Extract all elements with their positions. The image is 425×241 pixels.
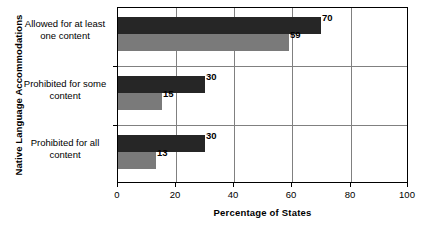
category-label-line: content — [16, 90, 114, 102]
bar-value-allowed-one-content-series-1: 70 — [322, 12, 333, 23]
gridline-80 — [351, 8, 352, 182]
bar-value-prohibited-all-content-series-2: 13 — [157, 147, 168, 158]
bar-allowed-one-content-series-2 — [118, 34, 289, 51]
bar-prohibited-some-content-series-1 — [118, 76, 205, 93]
category-label-line: Prohibited for all — [16, 137, 114, 149]
category-label-line: Prohibited for some — [16, 78, 114, 90]
bar-chart: Native Language Accommodations Allowed f… — [0, 0, 425, 241]
bar-prohibited-some-content-series-2 — [118, 93, 162, 110]
x-axis-tick-label-60: 60 — [276, 189, 306, 200]
x-axis-tick-40 — [233, 183, 234, 187]
x-axis-tick-60 — [291, 183, 292, 187]
group-separator — [118, 66, 407, 67]
category-label-prohibited-all-content: Prohibited for all content — [16, 137, 114, 160]
category-label-prohibited-some-content: Prohibited for some content — [16, 78, 114, 101]
bar-prohibited-all-content-series-2 — [118, 152, 156, 169]
x-axis-tick-100 — [407, 183, 408, 187]
x-axis-title: Percentage of States — [117, 207, 408, 218]
bar-value-prohibited-all-content-series-1: 30 — [206, 130, 217, 141]
bar-value-allowed-one-content-series-2: 59 — [290, 29, 301, 40]
x-axis-tick-0 — [117, 183, 118, 187]
group-separator — [118, 125, 407, 126]
x-axis-tick-label-20: 20 — [160, 189, 190, 200]
x-axis-tick-label-40: 40 — [218, 189, 248, 200]
category-label-line: Allowed for at least — [16, 18, 114, 30]
bar-value-prohibited-some-content-series-2: 15 — [163, 88, 174, 99]
x-axis-tick-label-80: 80 — [335, 189, 365, 200]
x-axis-tick-20 — [175, 183, 176, 187]
category-label-line: content — [16, 149, 114, 161]
x-axis-tick-80 — [350, 183, 351, 187]
category-label-line: one content — [16, 30, 114, 42]
category-label-allowed-one-content: Allowed for at least one content — [16, 18, 114, 41]
x-axis-tick-label-0: 0 — [102, 189, 132, 200]
x-axis-tick-label-100: 100 — [392, 189, 422, 200]
bar-value-prohibited-some-content-series-1: 30 — [206, 71, 217, 82]
